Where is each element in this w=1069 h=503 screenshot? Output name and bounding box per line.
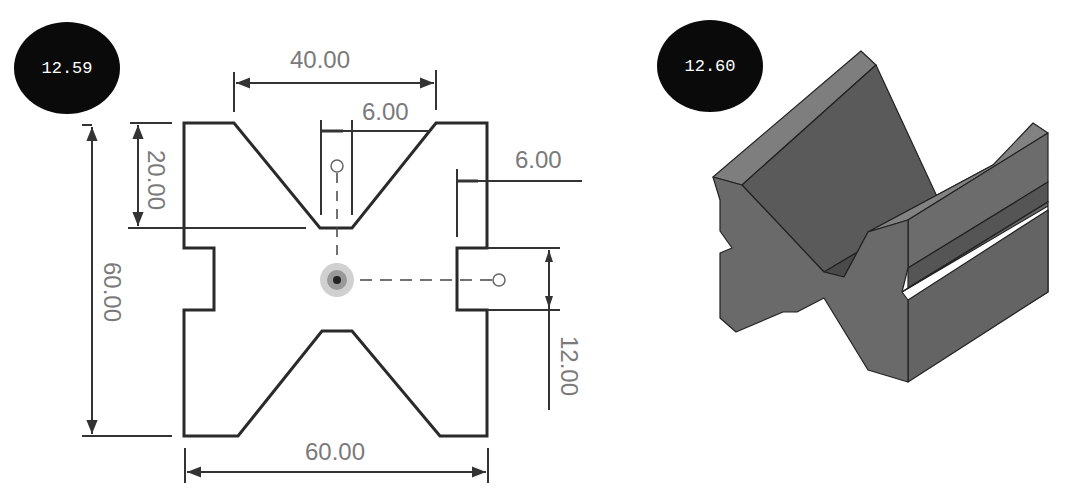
figure-12-60: 12.60 — [640, 0, 1069, 503]
dim-v-depth: 20.00 — [128, 123, 306, 228]
svg-text:12.00: 12.00 — [556, 336, 583, 396]
svg-text:60.00: 60.00 — [305, 438, 365, 465]
sketch-drawing: 40.00 6.00 6.00 20.00 — [0, 0, 620, 503]
svg-text:60.00: 60.00 — [99, 262, 126, 322]
svg-text:6.00: 6.00 — [362, 98, 409, 125]
svg-text:6.00: 6.00 — [515, 146, 562, 173]
dim-slot-height: 12.00 — [487, 248, 583, 410]
origin-point — [320, 263, 354, 297]
v-block-3d-model — [640, 0, 1069, 503]
figure-12-59: 12.59 40.00 6.00 6 — [0, 0, 620, 503]
dim-right-slot-depth: 6.00 — [457, 146, 582, 237]
dim-overall-width: 60.00 — [185, 438, 488, 483]
svg-text:40.00: 40.00 — [290, 46, 350, 73]
svg-text:20.00: 20.00 — [143, 150, 170, 210]
